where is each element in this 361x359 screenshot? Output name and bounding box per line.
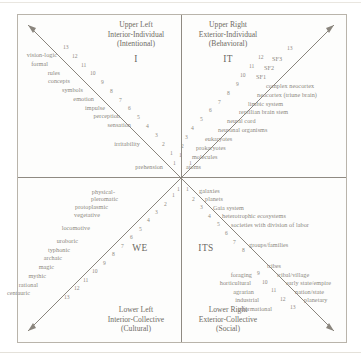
quadrant-pronoun-we: WE [132,243,147,253]
level-number: 1 [170,150,173,156]
level-number: 8 [110,88,113,94]
level-number: 13 [64,294,70,300]
level-number: 1 [172,192,175,198]
level-number: 1 [186,186,189,192]
level-label: tribal/village [277,271,309,278]
level-number: 6 [128,105,131,111]
ul-line2: Interior-Individual [108,30,164,40]
level-number: 5 [200,116,203,122]
level-number: 6 [209,107,212,113]
level-label: eukaryotes [205,135,232,142]
level-label: formal [31,60,48,67]
level-label: symbols [62,86,83,93]
level-number: 10 [240,72,246,78]
level-label: limbic system [248,100,283,107]
quadrant-pronoun-it: IT [223,54,233,64]
level-label: emotion [73,95,94,102]
level-number: 3 [185,134,188,140]
level-number: 3 [155,209,158,215]
level-label: concepts [48,77,70,84]
level-label: prokaryotes [196,144,226,151]
level-number: 11 [81,62,86,68]
level-number: 1 [177,186,180,192]
stage-label: agrarian [233,288,254,295]
level-label: neural cord [227,117,256,124]
ur-line3: (Behavioral) [199,39,257,49]
diagram-canvas: Upper Left Interior-Individual (Intentio… [0,0,361,359]
level-number: 7 [121,243,124,249]
level-label: centauric [7,289,30,296]
level-label: locomotive [62,224,90,231]
level-label: planets [205,195,223,202]
level-label: early state/empire [286,279,331,286]
quadrant-heading-upper-left: Upper Left Interior-Individual (Intentio… [108,20,164,49]
level-number: 8 [242,247,245,253]
level-number: 3 [155,132,158,138]
level-number: 10 [92,268,98,274]
level-number: 13 [290,304,296,310]
level-number: 10 [262,279,268,285]
level-number: 8 [227,90,230,96]
level-label: vision-logic [27,51,57,58]
quadrant-heading-upper-right: Upper Right Exterior-Individual (Behavio… [199,20,257,49]
level-label: pleromatic [91,195,118,202]
level-number: 2 [181,143,184,149]
level-label: tribes [267,262,281,269]
level-number: 12 [74,285,80,291]
level-label: galaxies [199,187,220,194]
level-label: magic [39,263,54,270]
level-number: 2 [164,201,167,207]
level-label: complex neocortex [266,82,314,89]
ur-line2: Exterior-Individual [199,30,257,40]
level-number: 4 [146,123,149,129]
level-number: 3 [200,204,203,210]
level-number: 13 [63,44,69,50]
level-number: 6 [225,230,228,236]
ll-line3: (Cultural) [108,324,164,334]
level-number: 5 [139,226,142,232]
level-number: 2 [162,141,165,147]
level-label: archaic [44,254,62,261]
level-label: sensation [108,121,131,128]
stage-label: industrial [235,296,259,303]
level-number: 9 [257,270,260,276]
level-number: 9 [101,79,104,85]
level-label: SF2 [264,64,274,71]
level-label: vegetative [74,211,100,218]
level-number: 12 [258,54,264,60]
level-label: uroboric [57,237,78,244]
level-number: 12 [280,296,286,302]
level-number: 12 [72,53,78,59]
level-number: 5 [137,114,140,120]
level-number: 1 [189,160,192,166]
level-number: 7 [233,239,236,245]
level-label: irritability [114,140,140,147]
level-label: planetary [304,296,327,303]
level-number: 11 [271,287,276,293]
lr-line2: Exterior-Collective [199,315,257,325]
level-label: nation/state [295,288,324,295]
level-label: impulse [85,104,105,111]
level-label: neocortex (triune brain) [257,91,317,98]
level-label: molecules [192,153,218,160]
level-label: neuronal organisms [218,126,267,133]
stage-label: informational [238,305,272,312]
level-number: 4 [147,217,150,223]
quadrant-heading-lower-left: Lower Left Interior-Collective (Cultural… [108,305,164,334]
level-number: 1 [173,160,176,166]
level-label: protoplasmic [75,203,108,210]
level-label: heterotrophic ecosystems [222,212,286,219]
level-label: groups/families [249,241,288,248]
level-number: 2 [192,196,195,202]
level-label: perception [93,112,120,119]
level-label: prehension [135,163,163,170]
level-label: reptilian brain stem [239,108,288,115]
level-label: mythic [29,272,47,279]
stage-label: foraging [231,271,252,278]
level-label: rules [48,69,60,76]
ul-line1: Upper Left [108,20,164,30]
level-number: 11 [83,277,88,283]
level-label: physical- [92,188,115,195]
level-number: 1 [179,152,182,158]
level-number: 5 [217,221,220,227]
